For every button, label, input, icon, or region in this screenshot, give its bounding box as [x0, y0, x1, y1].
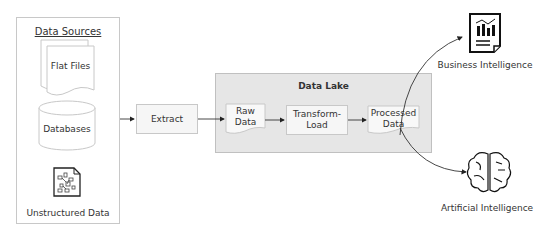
artificial-intelligence-label: Artificial Intelligence	[430, 203, 544, 214]
brain-icon	[0, 0, 544, 228]
